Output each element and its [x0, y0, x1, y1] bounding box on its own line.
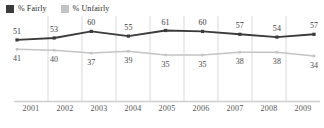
value-label: 38 [236, 57, 244, 66]
data-point [275, 36, 278, 39]
line-chart: % Fairly % Unfairly 51536055616057545741… [0, 0, 324, 128]
x-tick-2009: 2009 [295, 104, 312, 114]
x-tick-2006: 2006 [193, 104, 210, 114]
series-lines [17, 31, 314, 56]
data-point [16, 48, 19, 51]
data-point [238, 51, 241, 54]
data-point [201, 54, 204, 57]
data-point [127, 35, 130, 38]
value-label: 34 [310, 61, 318, 70]
value-label: 54 [273, 24, 281, 33]
value-label: 40 [50, 55, 58, 64]
data-point [53, 36, 56, 39]
x-tick-2001: 2001 [23, 104, 40, 114]
value-label: 39 [124, 56, 132, 65]
value-label: 35 [198, 60, 206, 69]
x-tick-2002: 2002 [57, 104, 74, 114]
data-point [276, 51, 279, 54]
value-label: 60 [198, 18, 206, 27]
chart-legend: % Fairly % Unfairly [6, 3, 109, 15]
x-tick-2008: 2008 [261, 104, 278, 114]
legend-label-fairly: % Fairly [18, 5, 47, 13]
x-tick-2003: 2003 [91, 104, 108, 114]
data-point [238, 33, 241, 36]
value-label: 55 [124, 23, 132, 32]
legend-swatch-fairly [6, 5, 14, 13]
legend-swatch-unfairly [61, 5, 69, 13]
value-label: 57 [310, 21, 318, 30]
data-point [312, 33, 315, 36]
value-label: 60 [87, 18, 95, 27]
data-point [164, 54, 167, 57]
data-point [201, 30, 204, 33]
value-label: 57 [236, 21, 244, 30]
data-point [90, 30, 93, 33]
legend-item-fairly: % Fairly [6, 5, 47, 13]
series-markers [15, 29, 315, 57]
legend-item-unfairly: % Unfairly [61, 5, 110, 13]
x-tick-2004: 2004 [125, 104, 142, 114]
value-label: 53 [50, 25, 58, 34]
value-label: 41 [13, 54, 21, 63]
data-point [53, 49, 56, 52]
data-point [164, 29, 167, 32]
data-point [313, 55, 316, 58]
gridlines [48, 16, 286, 101]
x-tick-2005: 2005 [159, 104, 176, 114]
value-label: 38 [273, 57, 281, 66]
legend-label-unfairly: % Unfairly [73, 5, 110, 13]
x-tick-2007: 2007 [227, 104, 244, 114]
value-label: 37 [87, 58, 95, 67]
data-point [127, 50, 130, 53]
data-point [15, 38, 18, 41]
x-axis-labels: 200120022003200420052006200720082009 [0, 104, 324, 120]
value-label: 35 [161, 60, 169, 69]
value-label: 51 [13, 27, 21, 36]
data-point [90, 52, 93, 55]
value-label: 61 [161, 18, 169, 27]
